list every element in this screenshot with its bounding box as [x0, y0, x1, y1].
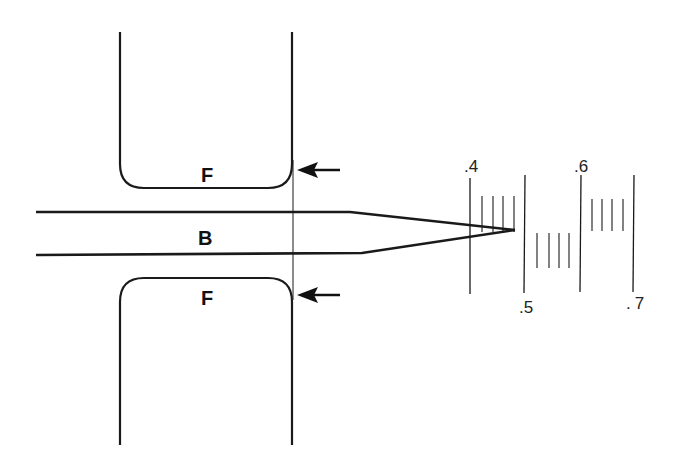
lower-arrow-icon [297, 287, 340, 303]
scale-label-0-6: .6 [574, 157, 588, 176]
scale-label-0-5: .5 [519, 298, 533, 317]
scale: .4 .5 .6 .7 [464, 157, 648, 317]
beam [36, 212, 515, 255]
scale-label-0-4: .4 [464, 157, 478, 176]
upper-arrow-icon [297, 162, 340, 178]
scale-label-0-7: .7 [626, 294, 648, 313]
beam-label: B [198, 227, 212, 249]
diagram-canvas: F B F .4 .5 .6 .7 [0, 0, 673, 457]
lower-block-label: F [201, 287, 213, 309]
upper-block-label: F [201, 164, 213, 186]
